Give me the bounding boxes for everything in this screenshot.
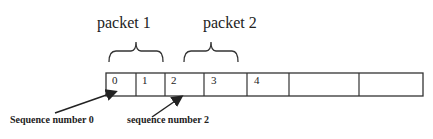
caption-sequence-number-2: sequence number 2 [127, 114, 209, 125]
caption-sequence-number-0: Sequence number 0 [10, 114, 94, 125]
brace-packet-2 [184, 42, 238, 62]
packet-2-label: packet 2 [203, 14, 257, 32]
arrow-seq0 [55, 92, 115, 113]
cell-3: 3 [211, 74, 217, 86]
cell-1: 1 [142, 74, 148, 86]
cell-4: 4 [254, 74, 260, 86]
cell-2: 2 [171, 74, 177, 86]
brace-packet-1 [109, 42, 163, 62]
packet-1-label: packet 1 [97, 14, 151, 32]
cell-0: 0 [112, 74, 118, 86]
buffer-row [106, 73, 423, 96]
